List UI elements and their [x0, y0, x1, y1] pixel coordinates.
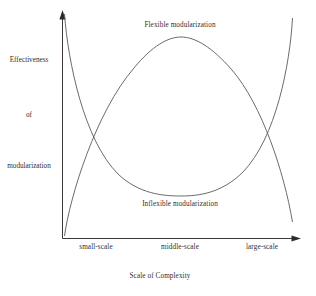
y-axis-caption-line-2: of: [0, 111, 58, 119]
y-axis-caption-line-1: Effectiveness: [0, 56, 58, 64]
y-axis-caption-line-3: modularization: [0, 162, 58, 170]
annotation-inflexible-modularization: Inflexible modularization: [142, 200, 218, 209]
x-axis-arrow-icon: [292, 235, 302, 241]
chart-figure: Effectiveness of modularization Flexible…: [0, 0, 316, 296]
x-axis-tick-label-middle-scale: middle-scale: [161, 243, 199, 252]
annotation-flexible-modularization: Flexible modularization: [144, 21, 215, 30]
x-axis-tick-label-small-scale: small-scale: [79, 243, 112, 252]
y-axis-caption: Effectiveness of modularization: [0, 56, 58, 170]
x-axis-title: Scale of Complexity: [130, 272, 191, 281]
x-axis-tick-label-large-scale: large-scale: [246, 243, 278, 252]
curve-inflexible-modularization: [65, 14, 293, 196]
